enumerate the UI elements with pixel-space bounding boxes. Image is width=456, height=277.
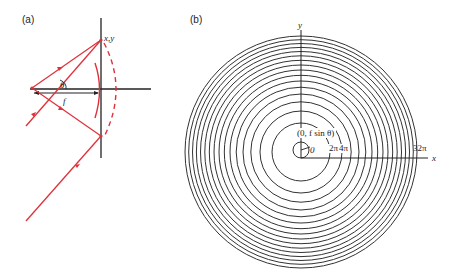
panel-a-label: (a) <box>22 14 34 25</box>
focal-label: f <box>63 96 67 106</box>
origin-label: 0 <box>310 145 315 155</box>
panel-a: (a) f θ x,y <box>22 14 151 221</box>
ray-focus-to-point <box>32 40 101 88</box>
ray-focus-to-lower <box>32 88 101 136</box>
figure-canvas: (a) f θ x,y (b) <box>0 0 456 277</box>
panel-b: (b) y x (0, f sin θ) 0 2π 4π 32π <box>185 14 436 268</box>
point-marker <box>99 134 102 137</box>
x-axis-label: x <box>431 153 436 163</box>
panel-b-label: (b) <box>190 14 202 25</box>
center-label: (0, f sin θ) <box>297 128 334 138</box>
ring-label-2pi: 2π <box>329 143 339 153</box>
angle-label: θ <box>60 80 65 90</box>
ring-label-32pi: 32π <box>413 143 427 153</box>
point-marker <box>99 38 102 41</box>
arrow-head-right-icon <box>94 91 99 95</box>
focus-marker <box>30 86 33 89</box>
ray-lower-to-outside <box>26 136 101 221</box>
ring-label-4pi: 4π <box>339 143 349 153</box>
mirror-arc <box>95 63 100 118</box>
wavefront-arc-dashed <box>104 43 116 137</box>
y-axis-label: y <box>297 20 302 30</box>
point-label: x,y <box>103 33 114 43</box>
